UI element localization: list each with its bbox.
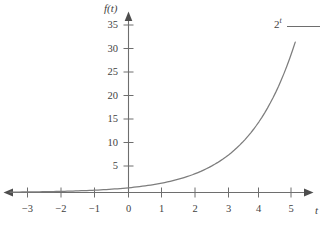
y-tick-label: 30 (100, 43, 118, 54)
x-tick-label: 4 (256, 204, 261, 215)
exponential-curve-2-to-the-t (10, 42, 295, 192)
y-tick-label: 20 (100, 90, 118, 101)
exponential-function-figure: 5 10 15 20 25 30 35 −3 −2 −1 0 1 2 3 4 5… (0, 0, 328, 228)
y-axis-up-arrow-icon (125, 12, 133, 22)
x-tick-label: 0 (126, 204, 131, 215)
caption-sliver (6, 221, 206, 228)
x-tick-label: 1 (159, 204, 164, 215)
x-tick-label: 3 (226, 204, 231, 215)
y-axis-title: f(t) (104, 3, 117, 14)
x-axis-title: t (315, 205, 318, 216)
y-tick-label: 5 (100, 161, 118, 172)
y-tick-label: 10 (100, 137, 118, 148)
legend-exponent: t (280, 16, 282, 25)
x-tick-label: −3 (22, 204, 33, 215)
y-tick-label: 35 (100, 20, 118, 31)
x-tick-label: 2 (192, 204, 197, 215)
legend-label-2-to-the-t: 2t (274, 19, 282, 30)
y-tick-label: 25 (100, 67, 118, 78)
plot-canvas (0, 0, 328, 228)
x-axis-right-arrow-icon (304, 189, 314, 197)
y-tick-label: 15 (100, 114, 118, 125)
x-tick-label: 5 (288, 204, 293, 215)
x-tick-label: −1 (89, 204, 100, 215)
x-tick-label: −2 (55, 204, 66, 215)
